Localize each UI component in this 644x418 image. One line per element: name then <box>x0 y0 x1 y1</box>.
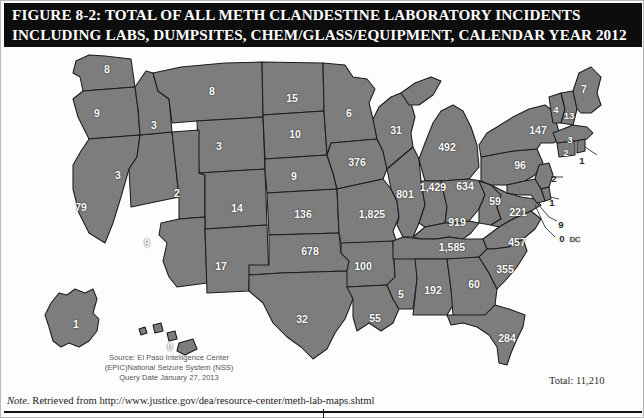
state-value-ct: 2 <box>563 147 568 158</box>
total-label: Total: 11,210 <box>549 375 604 386</box>
state-hi <box>139 327 147 335</box>
state-value-mt: 8 <box>209 86 215 97</box>
figure-title-banner: FIGURE 8-2: TOTAL OF ALL METH CLANDESTIN… <box>4 3 642 47</box>
dc-marker-label: DC <box>570 234 581 245</box>
state-value-mn: 6 <box>346 108 352 119</box>
state-value-sc: 355 <box>496 264 514 275</box>
state-value-pa: 96 <box>514 160 526 171</box>
state-value-oh: 634 <box>456 181 474 192</box>
state-nd <box>262 62 324 115</box>
state-value-ok: 678 <box>301 246 319 257</box>
state-value-il: 801 <box>396 189 414 200</box>
state-hi-3 <box>167 331 177 341</box>
footer-note-text: Retrieved from http://www.justice.gov/de… <box>30 395 375 406</box>
state-value-or: 9 <box>94 108 100 119</box>
state-value-nm: 17 <box>215 261 227 272</box>
state-value-ar: 100 <box>354 261 372 272</box>
state-value-tn: 1,585 <box>439 242 465 253</box>
source-line-3: Query Date January 27, 2013 <box>59 373 279 383</box>
state-value-al: 192 <box>424 285 442 296</box>
state-value-fl: 284 <box>498 333 516 344</box>
state-value-nj: 2 <box>551 173 556 184</box>
title-line-1: FIGURE 8-2: TOTAL OF ALL METH CLANDESTIN… <box>12 5 636 25</box>
state-value-va: 221 <box>509 207 527 218</box>
state-value-ne: 9 <box>291 171 297 182</box>
state-wy <box>197 117 265 173</box>
footer-tick <box>323 409 324 418</box>
state-value-wv: 59 <box>489 196 501 207</box>
footer-note: Note. Retrieved from http://www.justice.… <box>7 395 637 406</box>
state-value-ri: 1 <box>579 155 584 166</box>
source-line-2: (EPIC)National Seizure System (NSS) <box>59 363 279 373</box>
state-value-in: 1,429 <box>420 182 446 193</box>
state-value-az: 9 <box>144 238 150 249</box>
state-value-wy: 3 <box>216 141 222 152</box>
state-value-id: 3 <box>151 120 157 131</box>
state-ma <box>553 125 593 143</box>
state-value-ks: 136 <box>294 209 312 220</box>
state-value-mo: 1,825 <box>359 209 385 220</box>
state-value-hi: 0 <box>167 342 173 353</box>
title-line-2: INCLUDING LABS, DUMPSITES, CHEM/GLASS/EQ… <box>12 25 636 45</box>
source-line-1: Source: El Paso Intelligence Center <box>59 353 279 363</box>
state-az <box>159 217 207 287</box>
state-value-nd: 15 <box>286 93 298 104</box>
state-ne <box>265 155 337 193</box>
state-or <box>73 87 140 139</box>
state-value-nc: 457 <box>508 237 526 248</box>
state-value-wa: 8 <box>104 64 110 75</box>
leader-ri <box>585 147 597 155</box>
state-value-de: 1 <box>549 197 554 208</box>
state-value-la: 55 <box>369 313 381 324</box>
state-value-ga: 60 <box>468 279 480 290</box>
state-value-ny: 147 <box>529 125 547 136</box>
state-value-co: 14 <box>231 203 243 214</box>
state-value-me: 7 <box>581 84 587 95</box>
us-choropleth-map: 89793383291714151091366783263761,8251005… <box>1 47 644 377</box>
footer-note-prefix: Note. <box>7 395 30 406</box>
state-ny <box>479 105 561 157</box>
state-value-tx: 32 <box>296 314 308 325</box>
state-value-sd: 10 <box>289 129 301 140</box>
state-value-nv: 3 <box>115 170 121 181</box>
state-value-dc: 0 <box>559 233 564 244</box>
state-value-ia: 376 <box>348 157 366 168</box>
state-value-ky: 919 <box>448 217 466 228</box>
state-value-ms: 5 <box>398 289 404 300</box>
state-value-mi: 492 <box>438 142 456 153</box>
state-value-nh: 13 <box>564 110 575 121</box>
us-map-svg <box>1 47 644 377</box>
state-co <box>199 169 267 229</box>
state-ri <box>577 139 585 153</box>
state-value-md: 9 <box>558 219 563 230</box>
source-credit: Source: El Paso Intelligence Center (EPI… <box>59 353 279 384</box>
state-hi-2 <box>153 323 163 333</box>
state-value-ak: 1 <box>73 319 79 330</box>
state-value-ma: 3 <box>567 134 572 145</box>
state-value-ca: 79 <box>75 202 87 213</box>
state-value-ut: 2 <box>174 188 180 199</box>
state-value-vt: 4 <box>553 104 558 115</box>
state-ak <box>45 289 99 347</box>
state-value-wi: 31 <box>390 125 402 136</box>
figure-page: FIGURE 8-2: TOTAL OF ALL METH CLANDESTIN… <box>0 0 644 418</box>
